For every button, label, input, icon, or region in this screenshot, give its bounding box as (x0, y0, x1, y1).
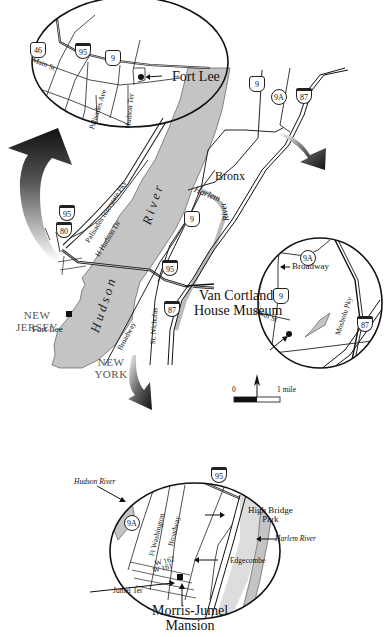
van-cortlandt-marker (286, 331, 292, 337)
broadway-vc-label: Broadway (292, 262, 329, 271)
morris-jumel-label: Morris-JumelMansion (152, 604, 228, 633)
edgecombe-label: Edgecombe (230, 557, 265, 565)
high-bridge-park-label: High BridgePark (248, 506, 293, 525)
route-9a-shield-top: 9A (271, 89, 287, 105)
interstate-87-shield-vc: 87 (357, 316, 373, 332)
harlem-river-inset-label: Harlem River (275, 535, 316, 543)
arrow-to-van-cortlandt-inset (280, 132, 326, 170)
interstate-87-shield-top: 87 (296, 88, 312, 104)
interstate-95-shield-mid: 95 (162, 260, 178, 276)
fort-lee-main-marker (66, 311, 72, 317)
interstate-87-shield-low: 87 (164, 301, 180, 317)
new-york-label: NEWYORK (93, 357, 129, 380)
arrow-to-fort-lee-inset (8, 128, 72, 262)
fort-lee-marker (138, 74, 144, 80)
bronx-label: Bronx (215, 170, 245, 182)
route-46-shield: 46 (30, 42, 46, 58)
morris-jumel-marker (177, 574, 183, 580)
route-9-shield-top: 9 (249, 76, 265, 92)
fort-lee-inset-label: Fort Lee (172, 70, 220, 84)
jumel-ter-label: Jumel Ter (113, 587, 143, 595)
new-jersey-label: NEWJERSEY (14, 310, 60, 333)
interstate-95-shield-inset: 95 (75, 43, 91, 59)
route-9-shield-mid: 9 (184, 211, 200, 227)
scale-zero-label: 0 (232, 386, 236, 394)
route-9a-shield-mj: 9A (124, 515, 140, 531)
arrow-to-morris-jumel-inset (128, 355, 152, 410)
route-9-shield-inset: 9 (105, 50, 121, 66)
route-9-shield-vc: 9 (273, 288, 289, 304)
hudson-river-inset-label: Hudson River (74, 478, 115, 486)
interstate-95-shield-mj: 95 (211, 467, 227, 483)
morris-jumel-inset-roads (110, 470, 280, 620)
interstate-95-shield-left: 95 (59, 205, 75, 221)
scale-one-mile-label: 1 mile (277, 386, 296, 394)
interstate-80-shield: 80 (56, 222, 72, 238)
